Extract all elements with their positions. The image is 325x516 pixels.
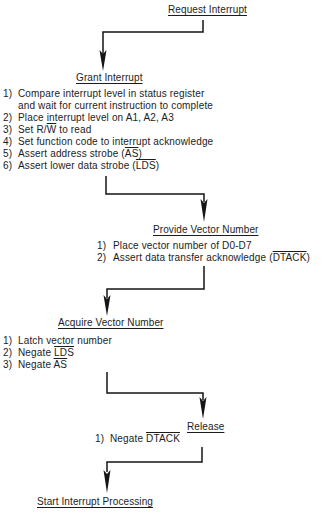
interrupt-sequence-diagram: Request Interrupt Grant Interrupt 1) Com… xyxy=(0,0,325,516)
step-title-grant-interrupt: Grant Interrupt xyxy=(76,72,143,84)
step-item-number: 3) xyxy=(3,359,12,371)
step-item-number: 6) xyxy=(3,160,12,172)
connector-provide-to-acquire xyxy=(107,266,204,298)
step-item-text: Place interrupt level on A1, A2, A3 xyxy=(18,112,174,124)
step-item-text: Set R/W to read xyxy=(18,124,91,136)
arrow-down-icon xyxy=(201,199,208,222)
text-segment: Negate xyxy=(18,359,54,370)
step-title-release: Release xyxy=(187,421,224,433)
active-low-signal: AS xyxy=(54,359,68,370)
step-item-continuation: and wait for current instruction to comp… xyxy=(18,100,213,112)
step-item-number: 2) xyxy=(3,112,12,124)
active-low-signal: LDS xyxy=(54,347,74,358)
step-item-text: Negate AS xyxy=(18,359,67,371)
arrow-down-icon xyxy=(200,397,207,419)
step-item-number: 3) xyxy=(3,124,12,136)
step-title-acquire-vector-number: Acquire Vector Number xyxy=(58,317,163,329)
connector-request-to-grant xyxy=(103,20,203,54)
connector-grant-to-provide xyxy=(106,176,204,202)
active-low-signal: LDS xyxy=(136,160,156,171)
active-low-signal: W xyxy=(47,124,57,135)
step-title-start-interrupt-processing: Start Interrupt Processing xyxy=(37,496,153,508)
active-low-signal: DTACK xyxy=(146,433,180,444)
text-segment: Set R/ xyxy=(18,124,47,135)
step-item-text: Assert address strobe (AS) xyxy=(18,148,142,160)
step-item-text: Compare interrupt level in status regist… xyxy=(18,88,204,100)
connector-release-to-start xyxy=(107,447,202,472)
step-item-number: 2) xyxy=(3,347,12,359)
step-item-text: Place vector number of D0-D7 xyxy=(113,240,252,252)
step-item-number: 2) xyxy=(97,252,106,264)
text-segment: Negate xyxy=(18,347,54,358)
step-item-number: 1) xyxy=(97,240,106,252)
connector-acquire-to-release xyxy=(107,372,203,400)
active-low-signal: AS xyxy=(125,148,139,159)
text-segment: Assert address strobe ( xyxy=(18,148,125,159)
step-item-text: Negate DTACK xyxy=(110,433,180,445)
step-item-number: 4) xyxy=(3,136,12,148)
arrow-down-icon xyxy=(104,470,111,493)
step-item-text: Latch vector number xyxy=(18,335,112,347)
step-item-number: 1) xyxy=(3,88,12,100)
step-item-text: Negate LDS xyxy=(18,347,74,359)
text-segment: Assert data transfer acknowledge ( xyxy=(113,252,273,263)
step-item-text: Assert data transfer acknowledge (DTACK) xyxy=(113,252,310,264)
step-item-number: 1) xyxy=(3,335,12,347)
step-title-provide-vector-number: Provide Vector Number xyxy=(153,224,258,236)
text-segment: ) xyxy=(138,148,141,159)
step-item-number: 5) xyxy=(3,148,12,160)
active-low-signal: DTACK xyxy=(273,252,307,263)
step-item-text: Assert lower data strobe (LDS) xyxy=(18,160,159,172)
step-item-text: Set function code to interrupt acknowled… xyxy=(18,136,213,148)
step-title-request-interrupt: Request Interrupt xyxy=(168,4,247,16)
text-segment: to read xyxy=(56,124,91,135)
arrow-down-icon xyxy=(104,295,111,316)
text-segment: Assert lower data strobe ( xyxy=(18,160,136,171)
step-item-number: 1) xyxy=(95,433,104,445)
text-segment: Negate xyxy=(110,433,146,444)
text-segment: ) xyxy=(156,160,159,171)
text-segment: ) xyxy=(307,252,310,263)
